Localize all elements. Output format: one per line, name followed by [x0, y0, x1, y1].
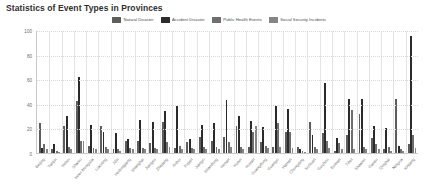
bar-group[interactable] — [332, 31, 344, 153]
legend-item-label: Accident Disaster — [172, 16, 205, 22]
bar[interactable] — [316, 149, 318, 153]
x-tick-group: Liaoning — [98, 156, 110, 188]
bar[interactable] — [292, 148, 294, 153]
legend-item[interactable]: Public Health Events — [212, 17, 262, 23]
bar-group[interactable] — [258, 31, 270, 153]
bar-group[interactable] — [234, 31, 246, 153]
plot-area — [36, 31, 418, 154]
bar[interactable] — [205, 149, 207, 153]
gridline-horizontal — [37, 56, 418, 57]
bar[interactable] — [169, 147, 171, 153]
bar-group[interactable] — [135, 31, 147, 153]
x-tick-label: Fujian — [183, 157, 194, 168]
bar-group[interactable] — [283, 31, 295, 153]
bar[interactable] — [132, 149, 134, 153]
bar[interactable] — [341, 149, 343, 153]
bar-group[interactable] — [271, 31, 283, 153]
x-tick-group: Shaanxi — [357, 156, 369, 188]
bar[interactable] — [181, 149, 183, 153]
x-tick-group: Sichuan — [307, 156, 319, 188]
bar-group[interactable] — [74, 31, 86, 153]
legend-item[interactable]: Natural Disaster — [112, 17, 154, 23]
bar-group[interactable] — [394, 31, 406, 153]
bar[interactable] — [95, 149, 97, 153]
bar-group[interactable] — [308, 31, 320, 153]
y-tick-label: 80 — [27, 53, 32, 58]
x-tick-group: Tianjin — [48, 156, 60, 188]
bar[interactable] — [242, 149, 244, 153]
x-tick-label: Ningxia — [391, 157, 404, 170]
x-tick-group: Jiangsu — [147, 156, 159, 188]
legend-item[interactable]: Social Security Incidents — [269, 17, 326, 23]
bar-group[interactable] — [98, 31, 110, 153]
bar[interactable] — [218, 149, 220, 153]
bar-group[interactable] — [37, 31, 49, 153]
bar[interactable] — [107, 149, 109, 153]
bar-group[interactable] — [49, 31, 61, 153]
x-tick-group: Yunnan — [332, 156, 344, 188]
bar-group[interactable] — [111, 31, 123, 153]
x-tick-group: Ningxia — [394, 156, 406, 188]
bar-group[interactable] — [123, 31, 135, 153]
legend-swatch-icon — [161, 17, 170, 23]
gridline-horizontal — [37, 31, 418, 32]
bar[interactable] — [279, 147, 281, 153]
bar[interactable] — [119, 151, 121, 153]
y-tick-label: 60 — [27, 78, 32, 83]
bar[interactable] — [193, 149, 195, 153]
legend-swatch-icon — [269, 17, 278, 23]
bar-group[interactable] — [209, 31, 221, 153]
x-tick-group: Tibet — [344, 156, 356, 188]
bar-group[interactable] — [320, 31, 332, 153]
bar-group[interactable] — [62, 31, 74, 153]
bar[interactable] — [378, 149, 380, 153]
x-tick-group: Hebei — [61, 156, 73, 188]
bar[interactable] — [361, 99, 363, 153]
bar[interactable] — [267, 148, 269, 153]
bar[interactable] — [328, 148, 330, 153]
x-tick-group: Beijing — [36, 156, 48, 188]
x-tick-group: Qinghai — [381, 156, 393, 188]
x-tick-label: Jilin — [112, 157, 120, 165]
bar-group[interactable] — [357, 31, 369, 153]
bar[interactable] — [156, 149, 158, 153]
legend-item[interactable]: Accident Disaster — [161, 17, 205, 23]
bar[interactable] — [351, 110, 353, 153]
bar-group[interactable] — [148, 31, 160, 153]
bar-group[interactable] — [369, 31, 381, 153]
x-tick-group: Xinjiang — [406, 156, 418, 188]
bar[interactable] — [365, 149, 367, 153]
bar[interactable] — [58, 152, 60, 153]
x-tick-group: Hubei — [233, 156, 245, 188]
bar-group[interactable] — [172, 31, 184, 153]
bar-group[interactable] — [246, 31, 258, 153]
x-tick-group: Fujian — [184, 156, 196, 188]
bar-group[interactable] — [160, 31, 172, 153]
bar-group[interactable] — [406, 31, 418, 153]
bar[interactable] — [144, 149, 146, 153]
bar[interactable] — [230, 147, 232, 153]
bar[interactable] — [304, 152, 306, 153]
bar-group[interactable] — [185, 31, 197, 153]
bar[interactable] — [46, 149, 48, 153]
gridline-horizontal — [37, 129, 418, 130]
bar[interactable] — [70, 149, 72, 153]
chart-legend: Natural DisasterAccident DisasterPublic … — [112, 15, 326, 24]
bar[interactable] — [390, 151, 392, 153]
bar-group[interactable] — [344, 31, 356, 153]
x-tick-group: Anhui — [172, 156, 184, 188]
bar-group[interactable] — [381, 31, 393, 153]
gridline-horizontal — [37, 105, 418, 106]
bar-group[interactable] — [221, 31, 233, 153]
bar[interactable] — [353, 149, 355, 153]
x-tick-label: Tibet — [345, 157, 355, 167]
x-axis: BeijingTianjinHebeiShanxiInner MongoliaL… — [36, 156, 418, 188]
bar-group[interactable] — [86, 31, 98, 153]
bar[interactable] — [83, 141, 85, 153]
x-tick-group: Inner Mongolia — [85, 156, 97, 188]
bar-group[interactable] — [295, 31, 307, 153]
x-tick-label: Tianjin — [47, 157, 59, 169]
bar[interactable] — [402, 151, 404, 153]
bar-group[interactable] — [197, 31, 209, 153]
bar[interactable] — [415, 148, 417, 153]
